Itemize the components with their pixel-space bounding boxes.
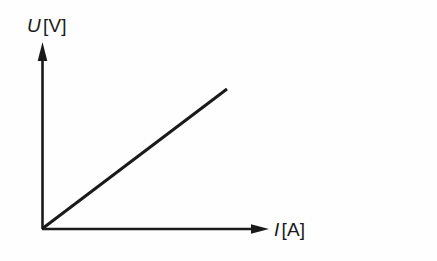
figure-root: U[V] I[A]	[0, 0, 437, 261]
y-axis-label: U[V]	[27, 16, 67, 35]
arrow-up-icon	[38, 42, 48, 61]
x-axis-unit: [A]	[281, 219, 305, 240]
arrow-right-icon	[251, 224, 269, 234]
y-axis-unit: [V]	[43, 15, 67, 36]
x-axis-label: I[A]	[274, 220, 305, 239]
y-axis-symbol: U	[27, 15, 43, 36]
plot-canvas	[0, 0, 437, 261]
data-line-ohmic	[43, 89, 228, 229]
